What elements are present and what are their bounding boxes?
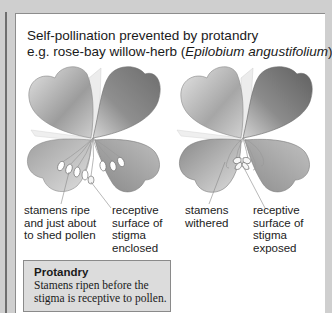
- protandry-definition-box: Protandry Stamens ripen before the stigm…: [23, 260, 171, 312]
- label-stamens-withered: stamens withered: [185, 204, 228, 229]
- note-title: Protandry: [34, 266, 170, 279]
- flower-illustration-early: [21, 58, 171, 208]
- petal: [29, 67, 93, 138]
- petal: [245, 139, 310, 192]
- species-name: Epilobium angustifolium: [185, 44, 328, 59]
- label-stigma-exposed: receptive surface of stigma exposed: [253, 204, 304, 254]
- petal: [179, 139, 241, 192]
- note-body-line-2: stigma is receptive to pollen.: [34, 292, 170, 305]
- note-body-line-1: Stamens ripen before the: [34, 279, 170, 292]
- stigma-open: [233, 157, 251, 169]
- diagram-panel: Self-pollination prevented by protandry …: [15, 13, 325, 313]
- petal: [181, 67, 243, 138]
- diagram-title: Self-pollination prevented by protandry …: [27, 28, 332, 60]
- petal: [93, 67, 160, 138]
- title-line-1: Self-pollination prevented by protandry: [27, 28, 332, 44]
- label-stigma-enclosed: receptive surface of stigma enclosed: [112, 204, 163, 254]
- stigma-closed: [88, 176, 94, 184]
- left-rule-divider: [5, 12, 7, 313]
- petal: [243, 67, 312, 138]
- flower-illustration-late: [171, 58, 321, 208]
- label-stamens-ripe: stamens ripe and just about to shed poll…: [24, 204, 96, 242]
